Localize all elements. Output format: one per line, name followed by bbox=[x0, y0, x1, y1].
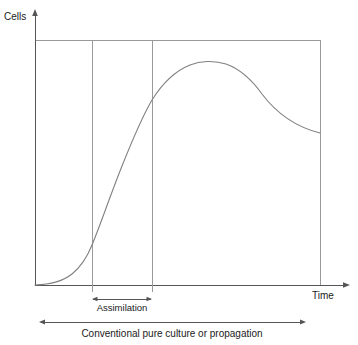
propagation-label: Conventional pure culture or propagation bbox=[81, 328, 262, 339]
assimilation-arrowhead-right bbox=[147, 297, 153, 302]
assimilation-annotation: Assimilation bbox=[92, 297, 152, 313]
propagation-arrowhead-left bbox=[39, 320, 45, 325]
y-axis-label: Cells bbox=[4, 11, 26, 22]
x-axis bbox=[35, 282, 350, 288]
propagation-annotation: Conventional pure culture or propagation bbox=[39, 320, 306, 340]
growth-chart: Cells Time Assimilation Conventional pur… bbox=[0, 0, 358, 345]
y-axis-arrowhead bbox=[32, 9, 38, 16]
growth-curve-path bbox=[35, 61, 320, 285]
plot-frame bbox=[35, 40, 320, 285]
y-axis bbox=[32, 9, 38, 285]
propagation-arrowhead-right bbox=[300, 320, 306, 325]
x-axis-arrowhead bbox=[343, 282, 350, 288]
x-axis-label: Time bbox=[312, 290, 334, 301]
growth-curve-figure: Cells Time Assimilation Conventional pur… bbox=[0, 0, 358, 345]
assimilation-arrowhead-left bbox=[92, 297, 98, 302]
assimilation-label: Assimilation bbox=[97, 302, 148, 313]
